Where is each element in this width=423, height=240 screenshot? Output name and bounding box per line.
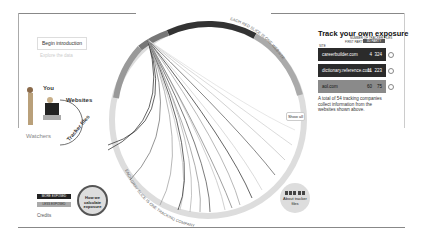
third-party-count: 75 [377,80,382,93]
site-row[interactable]: dictionary.reference.com 11 223 [318,64,386,77]
legend-less-exposed: LESS EXPOSED [37,202,71,207]
first-party-count: 11 [367,64,372,77]
how-we-calculate-button[interactable]: How we calculate exposure [77,185,108,216]
you-label: You [43,85,54,91]
row-toggle[interactable] [388,84,394,90]
third-party-header: 3D PARTY [363,39,385,43]
row-toggle[interactable] [388,52,394,58]
about-tracker-files-button[interactable]: About tracker files [280,183,310,213]
first-party-count: 4 [369,48,372,61]
legend-more-exposed: MORE EXPOSED [37,194,71,199]
third-party-count: 324 [374,48,382,61]
tracker-summary: A total of 54 tracking companies collect… [318,96,384,113]
site-name: aol.com [322,80,338,93]
about-label: About tracker files [280,197,310,206]
people-illustration [27,87,61,125]
row-toggle[interactable] [388,68,394,74]
first-party-header: FIRST PARTY [345,40,364,44]
calc-label: How we calculate exposure [79,196,106,210]
credits-link[interactable]: Credits [37,213,51,218]
site-name: dictionary.reference.com [322,64,371,77]
site-row[interactable]: aol.com 60 75 [318,80,386,93]
third-party-count: 223 [374,64,382,77]
first-party-count: 60 [367,80,372,93]
site-row[interactable]: careerbuilder.com 4 324 [318,48,386,61]
explore-data-link[interactable]: Explore the data [40,53,73,58]
begin-introduction-button[interactable]: Begin introduction [37,37,87,50]
site-name: careerbuilder.com [322,48,358,61]
watchers-label: Watchers [26,133,51,139]
tracker-files-icon [280,191,310,195]
websites-label: Websites [66,97,92,103]
show-all-button[interactable]: Show all [286,112,305,121]
